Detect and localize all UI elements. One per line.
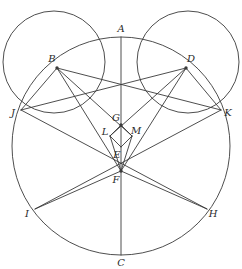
point-label-h: H — [209, 209, 218, 219]
segments-group — [21, 37, 221, 255]
point-label-j: J — [11, 108, 15, 118]
segment-G-L — [110, 125, 121, 136]
segment-H-F — [121, 171, 207, 209]
point-label-m: M — [131, 126, 141, 136]
segment-B-K — [57, 68, 221, 110]
vertex-dots-group — [55, 66, 187, 172]
vertex-dot-b — [55, 66, 58, 69]
segment-K-I — [35, 110, 221, 209]
vertex-dot-d — [184, 66, 187, 69]
segment-I-F — [35, 171, 121, 209]
point-label-f: F — [113, 175, 120, 185]
point-label-a: A — [117, 24, 124, 34]
point-label-l: L — [102, 127, 109, 137]
point-label-c: C — [117, 258, 125, 268]
point-label-g: G — [112, 113, 120, 123]
geometry-figure: ABCDEFGHIJKLM — [0, 0, 242, 269]
point-label-e: E — [113, 150, 120, 160]
vertex-dot-f — [119, 169, 122, 172]
point-label-d: D — [187, 54, 195, 64]
segment-D-F — [121, 68, 186, 171]
point-label-k: K — [224, 108, 231, 118]
vertex-dot-g — [119, 123, 122, 126]
diagram-canvas — [0, 0, 242, 269]
point-label-i: I — [25, 209, 29, 219]
point-label-b: B — [48, 54, 55, 64]
